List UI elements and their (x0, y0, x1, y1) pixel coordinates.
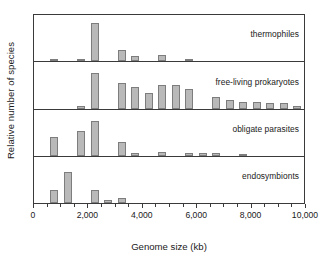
x-tick-minor (101, 204, 102, 207)
bar (64, 172, 72, 203)
x-tick-minor (74, 204, 75, 207)
bar (212, 153, 220, 156)
x-tick-label: 6,000 (185, 210, 207, 220)
x-tick-minor (128, 204, 129, 207)
bar (91, 23, 99, 61)
x-tick-major (196, 204, 197, 208)
bar (212, 97, 220, 109)
x-tick-minor (291, 204, 292, 207)
bar (199, 153, 207, 156)
bar (185, 89, 193, 109)
plot-area: thermophiles free-living prokaryotes obl… (33, 14, 305, 204)
bar (91, 121, 99, 156)
x-tick-minor (210, 204, 211, 207)
bar (226, 100, 234, 109)
bar (145, 93, 153, 108)
x-tick-minor (155, 204, 156, 207)
x-tick-minor (169, 204, 170, 207)
bar (50, 59, 58, 61)
x-tick-label: 2,000 (77, 210, 99, 220)
panel-free-living-prokaryotes: free-living prokaryotes (34, 62, 304, 109)
x-tick-major (251, 204, 252, 208)
y-axis-label-text: Relative number of species (6, 41, 17, 158)
bar (239, 102, 247, 108)
x-tick-label: 4,000 (131, 210, 153, 220)
bar (280, 103, 288, 109)
bar (50, 190, 58, 203)
bar (118, 50, 126, 61)
x-tick-major (305, 204, 306, 208)
x-tick-minor (60, 204, 61, 207)
panel-thermophiles: thermophiles (34, 15, 304, 62)
panel-endosymbionts: endosymbionts (34, 157, 304, 204)
bar (131, 87, 139, 108)
bar (158, 85, 166, 109)
bar (253, 102, 261, 108)
bar (118, 142, 126, 156)
x-tick-minor (47, 204, 48, 207)
x-tick-minor (237, 204, 238, 207)
panel-label-thermophiles: thermophiles (250, 29, 299, 39)
x-tick-major (87, 204, 88, 208)
panel-label-obligate-parasites: obligate parasites (232, 124, 299, 134)
x-tick-minor (183, 204, 184, 207)
bar (172, 85, 180, 109)
bar (118, 198, 126, 203)
x-axis: 02,0004,0006,0008,00010,000 (33, 204, 305, 205)
x-tick-label: 8,000 (240, 210, 262, 220)
bar (131, 153, 139, 155)
bar (131, 56, 139, 61)
figure-root: Relative number of species thermophiles … (0, 0, 329, 269)
panel-obligate-parasites: obligate parasites (34, 110, 304, 157)
bar (185, 59, 193, 61)
x-tick-minor (278, 204, 279, 207)
x-tick-minor (223, 204, 224, 207)
bar (77, 131, 85, 156)
bar (118, 83, 126, 108)
bar (77, 106, 85, 109)
x-tick-minor (264, 204, 265, 207)
bar (91, 73, 99, 109)
bar (185, 153, 193, 156)
bar (104, 200, 112, 203)
bar (266, 103, 274, 109)
bar (50, 137, 58, 156)
y-axis-label: Relative number of species (0, 0, 22, 200)
bar (77, 59, 85, 61)
bar (91, 190, 99, 203)
x-tick-minor (115, 204, 116, 207)
bar (293, 106, 301, 108)
panel-label-free-living-prokaryotes: free-living prokaryotes (215, 77, 299, 87)
x-tick-major (33, 204, 34, 208)
x-tick-major (142, 204, 143, 208)
x-tick-label: 0 (31, 210, 36, 220)
x-axis-label: Genome size (kb) (33, 241, 305, 252)
bar (158, 152, 166, 156)
x-tick-label: 10,000 (292, 210, 318, 220)
bar (239, 154, 247, 156)
bar (158, 55, 166, 61)
panel-label-endosymbionts: endosymbionts (242, 171, 299, 181)
